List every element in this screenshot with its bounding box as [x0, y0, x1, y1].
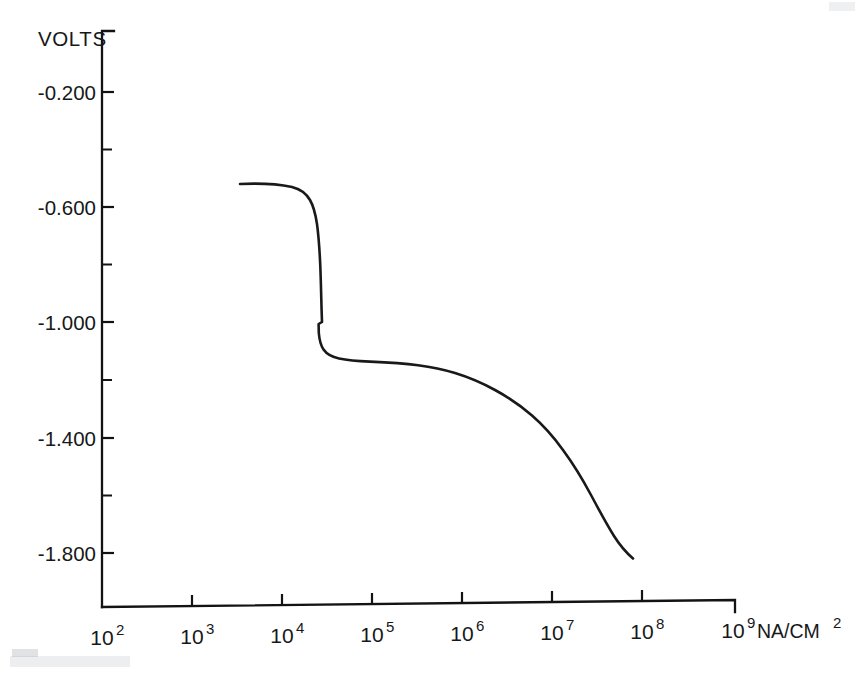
x-tick-exponent-6: 8 — [656, 615, 664, 632]
x-tick-label-2: 10 4 — [270, 619, 304, 647]
x-tick-label-6: 10 8 — [630, 615, 664, 643]
x-tick-base-1: 10 — [180, 625, 203, 648]
x-axis-unit-label: NA/CM 2 — [757, 614, 841, 642]
x-tick-exponent-1: 3 — [206, 620, 214, 637]
chart-canvas: VOLTS -0.200 -0.600 -1.000 -1.400 -1.800 — [0, 0, 857, 673]
x-axis-unit-exponent: 2 — [833, 614, 841, 631]
x-tick-exponent-7: 9 — [747, 614, 755, 631]
y-tick-label-4: -1.800 — [38, 542, 96, 565]
x-tick-base-7: 10 — [721, 619, 744, 642]
y-axis-title: VOLTS — [38, 27, 107, 50]
y-tick-label-0: -0.200 — [38, 81, 96, 104]
x-tick-exponent-4: 6 — [476, 617, 484, 634]
x-axis-unit-text: NA/CM — [757, 620, 820, 642]
y-axis-line — [102, 31, 114, 607]
x-tick-base-3: 10 — [360, 623, 383, 646]
x-tick-label-0: 10 2 — [90, 621, 124, 649]
x-tick-exponent-2: 4 — [296, 619, 304, 636]
x-tick-exponent-3: 5 — [386, 618, 394, 635]
x-tick-label-5: 10 7 — [540, 616, 574, 644]
y-axis-major-ticks — [102, 92, 114, 553]
x-axis-line — [102, 600, 735, 612]
x-tick-label-7: 10 9 — [721, 614, 755, 642]
x-tick-base-0: 10 — [90, 626, 113, 649]
x-tick-exponent-5: 7 — [566, 616, 574, 633]
x-tick-base-4: 10 — [450, 622, 473, 645]
y-tick-label-2: -1.000 — [38, 311, 96, 334]
x-tick-base-2: 10 — [270, 624, 293, 647]
x-tick-base-6: 10 — [630, 620, 653, 643]
y-tick-label-3: -1.400 — [38, 427, 96, 450]
x-tick-label-1: 10 3 — [180, 620, 214, 648]
x-tick-label-3: 10 5 — [360, 618, 394, 646]
data-curve-polarization — [240, 184, 633, 559]
x-tick-label-4: 10 6 — [450, 617, 484, 645]
y-tick-label-1: -0.600 — [38, 196, 96, 219]
x-tick-base-5: 10 — [540, 621, 563, 644]
x-tick-exponent-0: 2 — [116, 621, 124, 638]
chart-figure: VOLTS -0.200 -0.600 -1.000 -1.400 -1.800 — [0, 0, 857, 673]
